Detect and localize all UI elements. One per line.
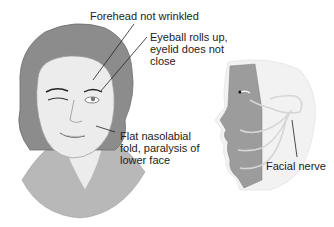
- label-nasolabial: Flat nasolabial fold, paralysis of lower…: [120, 130, 199, 166]
- label-forehead: Forehead not wrinkled: [90, 10, 199, 22]
- label-facial-nerve: Facial nerve: [266, 160, 326, 172]
- label-eyeball: Eyeball rolls up, eyelid does not close: [150, 31, 228, 67]
- woman-figure: [19, 24, 145, 218]
